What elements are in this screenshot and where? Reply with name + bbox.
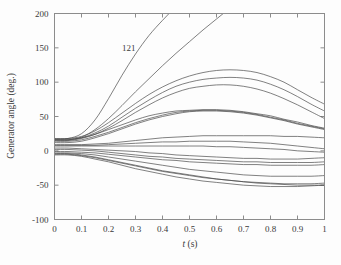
curve-gen-peak-96 [55,85,325,141]
axis-ticks [55,14,325,220]
x-tick-label: 0.3 [130,224,142,234]
x-tick-labels: 00.10.20.30.40.50.60.70.80.91 [52,224,327,234]
y-tick-label: -100 [32,215,49,225]
curve-gen-peak-118 [55,70,325,139]
x-axis-title: t (s) [182,239,197,250]
x-tick-label: 0.2 [103,224,114,234]
x-tick-label: 0.6 [211,224,223,234]
y-tick-label: 200 [35,9,49,19]
y-tick-label: 50 [40,112,50,122]
curve-gen-peak-60a [55,110,325,140]
y-tick-label: 0 [44,146,49,156]
x-tick-label: 0.7 [238,224,250,234]
curve-gen-dip-neg20 [55,151,325,165]
curve-gen-peak-22 [55,136,325,145]
y-tick-label: 150 [35,43,49,53]
y-tick-label: 100 [35,77,49,87]
curve-label-annotation: 121 [122,43,136,53]
y-tick-labels: -100-50050100150200 [32,9,49,225]
curve-gen-flat-small [55,146,325,152]
curve-gen-121-unstable [55,0,325,139]
y-axis-title: Generator angle (deg.) [6,73,17,159]
chart-svg: 00.10.20.30.40.50.60.70.80.91 -100-50050… [0,0,341,265]
chart-annotations: 121 [122,43,136,53]
y-tick-label: -50 [37,180,49,190]
x-tick-label: 0.5 [184,224,196,234]
x-tick-label: 0 [52,224,57,234]
curve-gen-dip-neg36 [55,153,325,176]
x-tick-label: 0.4 [157,224,169,234]
x-tick-label: 0.1 [76,224,87,234]
plot-frame [55,14,325,220]
curve-gen-dip-neg52 [55,155,325,187]
curve-gen-peak-14 [55,141,325,149]
curve-group [55,0,325,187]
x-tick-label: 0.9 [292,224,304,234]
curve-gen-dip-neg48 [55,154,325,184]
figure-generator-angle-plot: 00.10.20.30.40.50.60.70.80.91 -100-50050… [0,0,341,265]
curve-gen-peak-58 [55,111,325,143]
x-tick-label: 1 [322,224,327,234]
x-tick-label: 0.8 [265,224,277,234]
